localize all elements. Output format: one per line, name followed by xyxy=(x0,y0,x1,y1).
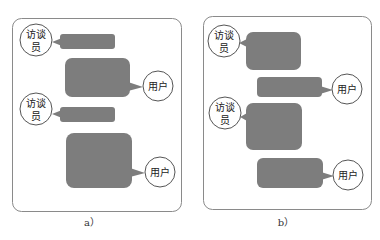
svg-text:用户: 用户 xyxy=(337,83,357,95)
user-speech-bubble xyxy=(257,158,334,188)
svg-text:员: 员 xyxy=(31,111,41,122)
user-speech-bubble xyxy=(257,77,333,97)
interviewer-node: 访谈 员 xyxy=(208,25,240,57)
svg-text:员: 员 xyxy=(31,42,41,53)
interview-dialogue-diagram: 访谈 员 用户 访谈 员 xyxy=(0,0,380,240)
panel-b: 访谈 员 用户 访谈 员 xyxy=(204,17,372,229)
interviewer-speech-bubble xyxy=(52,34,115,49)
panel-a: 访谈 员 用户 访谈 员 xyxy=(13,19,182,229)
panel-a-caption: a） xyxy=(84,217,100,228)
interviewer-node: 访谈 员 xyxy=(20,24,52,56)
user-node: 用户 xyxy=(332,74,362,104)
user-node: 用户 xyxy=(145,157,175,187)
interviewer-speech-bubble xyxy=(240,103,302,150)
interviewer-speech-bubble xyxy=(52,107,115,122)
interviewer-node: 访谈 员 xyxy=(20,93,52,125)
svg-text:访谈: 访谈 xyxy=(26,28,46,40)
svg-text:用户: 用户 xyxy=(338,169,358,181)
svg-text:访谈: 访谈 xyxy=(26,97,46,109)
svg-text:用户: 用户 xyxy=(148,80,168,92)
svg-text:员: 员 xyxy=(219,43,229,54)
svg-text:用户: 用户 xyxy=(150,166,170,178)
svg-text:访谈: 访谈 xyxy=(214,29,234,41)
panel-b-caption: b） xyxy=(278,217,294,228)
svg-text:访谈: 访谈 xyxy=(215,101,235,113)
user-node: 用户 xyxy=(333,160,363,190)
interviewer-speech-bubble xyxy=(239,32,301,70)
interviewer-node: 访谈 员 xyxy=(209,97,241,129)
svg-text:员: 员 xyxy=(220,115,230,126)
user-node: 用户 xyxy=(143,71,173,101)
